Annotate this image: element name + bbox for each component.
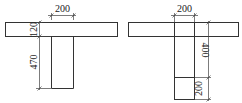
right-height-dimension: 400 200	[193, 21, 211, 102]
right-flange	[129, 23, 239, 37]
left-flange-thickness-label: 120	[28, 22, 39, 37]
right-upper-height-label: 400	[200, 43, 211, 58]
right-lower-height-label: 200	[193, 81, 204, 96]
diagram-canvas: 200 120 470 200	[0, 0, 242, 103]
left-height-dimension: 120 470	[28, 21, 51, 91]
left-width-label: 200	[55, 3, 70, 14]
right-web	[175, 23, 195, 100]
left-t-section: 200 120 470	[6, 3, 118, 91]
left-web	[52, 37, 74, 89]
left-width-dimension: 200	[48, 3, 76, 20]
right-width-label: 200	[177, 3, 192, 14]
right-t-section: 200 400 200	[129, 3, 239, 102]
left-flange	[6, 23, 118, 37]
left-web-height-label: 470	[28, 55, 39, 70]
right-width-dimension: 200	[171, 3, 198, 22]
